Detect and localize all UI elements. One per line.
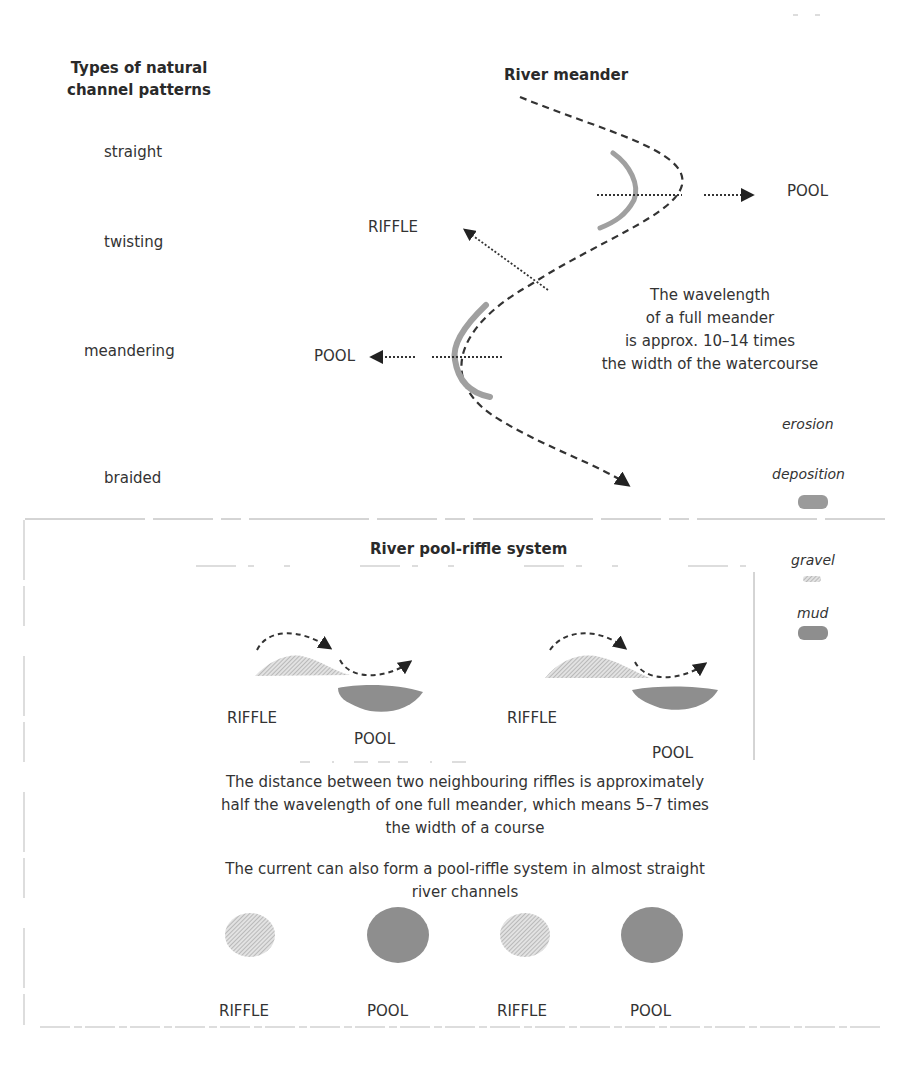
legend-mud: mud bbox=[797, 605, 828, 621]
wavelength-note: The wavelength of a full meander is appr… bbox=[560, 284, 860, 376]
riffle-gravel-1 bbox=[255, 656, 350, 676]
pattern-twisting: twisting bbox=[104, 233, 163, 251]
straight-channel-caption: The current can also form a pool-riffle … bbox=[150, 858, 780, 904]
flow-arrow-2 bbox=[340, 660, 410, 675]
pattern-meandering: meandering bbox=[84, 342, 175, 360]
mud-swatch bbox=[798, 626, 828, 640]
pool-label-right: POOL bbox=[787, 182, 828, 200]
riffle-distance-caption: The distance between two neighbouring ri… bbox=[150, 771, 780, 840]
straight-pool-1: POOL bbox=[367, 1002, 408, 1020]
seq-pool-1: POOL bbox=[354, 730, 395, 748]
pool-circle-2 bbox=[621, 907, 683, 963]
deposition-bar-upper bbox=[600, 153, 636, 228]
legend-erosion: erosion bbox=[782, 416, 834, 432]
straight-pool-2: POOL bbox=[630, 1002, 671, 1020]
pool-mud-1 bbox=[338, 685, 423, 712]
patterns-title: Types of natural channel patterns bbox=[64, 57, 214, 101]
riffle-gravel-2 bbox=[545, 656, 650, 678]
pool-mud-2 bbox=[632, 687, 718, 710]
riffle-circle-1 bbox=[225, 913, 275, 957]
pool-circle-1 bbox=[367, 907, 429, 963]
deposition-swatch bbox=[798, 495, 828, 509]
riffle-circle-2 bbox=[500, 913, 550, 957]
pattern-straight: straight bbox=[104, 143, 162, 161]
flow-arrow-4 bbox=[635, 662, 705, 677]
pool-riffle-title: River pool-riffle system bbox=[370, 540, 567, 558]
flow-arrow-3 bbox=[550, 633, 625, 650]
pool-label-left: POOL bbox=[314, 347, 355, 365]
legend-gravel: gravel bbox=[791, 552, 835, 568]
straight-riffle-2: RIFFLE bbox=[497, 1002, 547, 1020]
seq-riffle-2: RIFFLE bbox=[507, 709, 557, 727]
pattern-braided: braided bbox=[104, 469, 161, 487]
riffle-label: RIFFLE bbox=[368, 218, 418, 236]
flow-arrow-1 bbox=[257, 633, 330, 650]
meander-title: River meander bbox=[504, 66, 628, 84]
straight-riffle-1: RIFFLE bbox=[219, 1002, 269, 1020]
legend-deposition: deposition bbox=[772, 466, 845, 482]
seq-riffle-1: RIFFLE bbox=[227, 709, 277, 727]
seq-pool-2: POOL bbox=[652, 744, 693, 762]
gravel-swatch bbox=[803, 576, 821, 582]
